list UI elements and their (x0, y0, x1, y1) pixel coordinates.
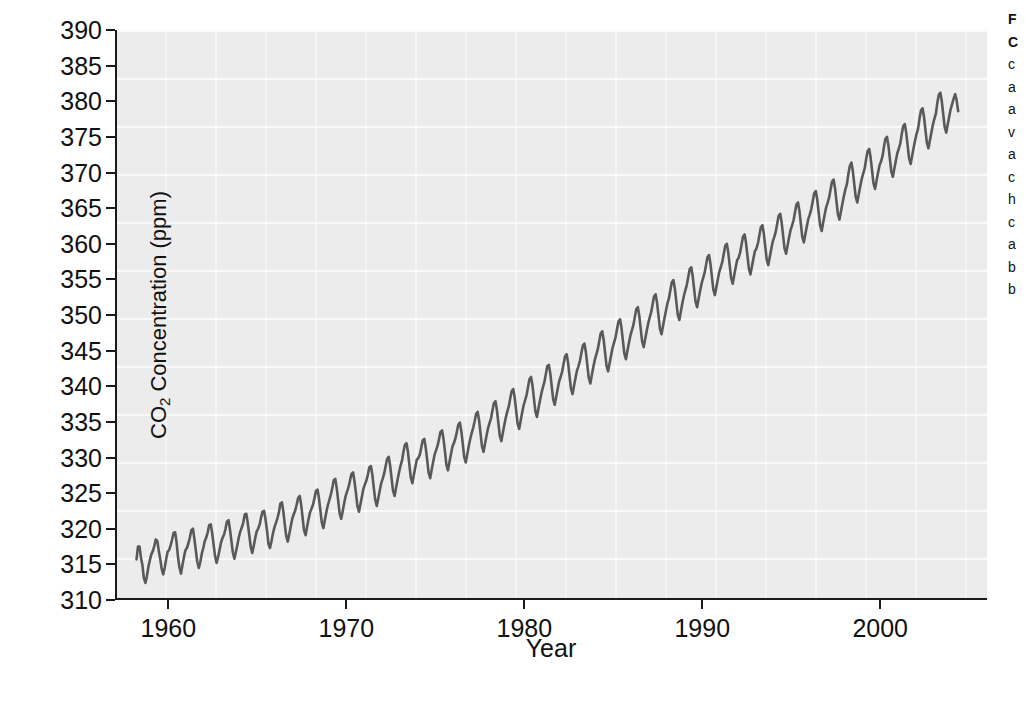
caption-line-5: a (1008, 98, 1029, 121)
y-tick-label-350: 350 (40, 303, 102, 328)
x-axis-line (115, 598, 987, 600)
x-tick-label-2000: 2000 (835, 614, 925, 643)
caption-line-4: a (1008, 76, 1029, 99)
y-tick-330 (106, 457, 115, 459)
x-tick-label-1960: 1960 (123, 614, 213, 643)
y-tick-350 (106, 314, 115, 316)
y-tick-340 (106, 385, 115, 387)
caption-column: FCcaavachcabb (1008, 8, 1029, 301)
y-tick-label-325: 325 (40, 481, 102, 506)
y-tick-label-330: 330 (40, 446, 102, 471)
y-tick-310 (106, 599, 115, 601)
y-tick-370 (106, 172, 115, 174)
y-tick-label-390: 390 (40, 18, 102, 43)
y-tick-label-345: 345 (40, 339, 102, 364)
y-tick-375 (106, 136, 115, 138)
x-tick-label-1970: 1970 (301, 614, 391, 643)
y-tick-390 (106, 29, 115, 31)
x-tick-label-1980: 1980 (479, 614, 569, 643)
y-tick-label-385: 385 (40, 54, 102, 79)
y-tick-380 (106, 100, 115, 102)
co2-series-line (115, 30, 987, 600)
y-tick-335 (106, 421, 115, 423)
x-tick-1990 (701, 600, 703, 609)
y-tick-label-365: 365 (40, 196, 102, 221)
y-tick-385 (106, 65, 115, 67)
caption-line-2: C (1008, 31, 1029, 54)
y-tick-label-335: 335 (40, 410, 102, 435)
y-tick-365 (106, 207, 115, 209)
figure-root: 3103153203253303353403453503553603653703… (0, 0, 1029, 701)
caption-line-9: h (1008, 188, 1029, 211)
y-tick-label-370: 370 (40, 161, 102, 186)
y-tick-320 (106, 528, 115, 530)
caption-line-13: b (1008, 278, 1029, 301)
caption-line-6: v (1008, 121, 1029, 144)
y-tick-label-375: 375 (40, 125, 102, 150)
caption-line-3: c (1008, 53, 1029, 76)
x-tick-2000 (879, 600, 881, 609)
y-tick-315 (106, 563, 115, 565)
caption-line-1: F (1008, 8, 1029, 31)
y-tick-label-360: 360 (40, 232, 102, 257)
y-axis-line (115, 30, 117, 600)
y-tick-325 (106, 492, 115, 494)
y-tick-label-340: 340 (40, 374, 102, 399)
y-tick-label-355: 355 (40, 267, 102, 292)
plot-area (115, 30, 987, 600)
y-tick-label-315: 315 (40, 552, 102, 577)
co2-polyline (137, 93, 959, 583)
y-tick-360 (106, 243, 115, 245)
y-tick-355 (106, 278, 115, 280)
x-tick-1960 (167, 600, 169, 609)
y-tick-label-320: 320 (40, 517, 102, 542)
caption-line-8: c (1008, 166, 1029, 189)
y-tick-345 (106, 350, 115, 352)
caption-line-11: a (1008, 233, 1029, 256)
x-tick-1980 (523, 600, 525, 609)
x-tick-label-1990: 1990 (657, 614, 747, 643)
caption-line-7: a (1008, 143, 1029, 166)
x-tick-1970 (345, 600, 347, 609)
y-tick-label-310: 310 (40, 588, 102, 613)
y-tick-label-380: 380 (40, 89, 102, 114)
caption-line-10: c (1008, 211, 1029, 234)
caption-line-12: b (1008, 256, 1029, 279)
